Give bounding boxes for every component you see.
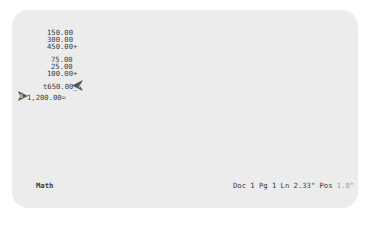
left-pointing-arrow-icon: A	[72, 80, 84, 91]
right-pointing-arrow-icon: B	[18, 91, 28, 101]
status-position: Doc 1 Pg 1 Ln 2.33" Pos 1.8"	[233, 182, 354, 189]
svg-text:A: A	[79, 83, 83, 89]
status-doc-label: Doc 1 Pg 1 Ln 2.33" Pos	[233, 181, 333, 190]
status-mode: Math	[36, 182, 53, 189]
svg-text:B: B	[20, 93, 24, 99]
doc-line: 100.00+	[47, 70, 77, 77]
doc-line: 450.00+	[47, 43, 77, 50]
doc-line-total: 1,200.00=	[27, 94, 66, 101]
status-pos-value: 1.8"	[337, 181, 354, 190]
